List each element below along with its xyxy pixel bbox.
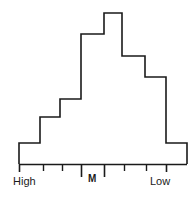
- histogram-figure: High M Low: [0, 0, 190, 197]
- histogram-outline: [19, 13, 187, 164]
- axis-label-high: High: [13, 176, 36, 187]
- axis-label-median: M: [88, 174, 96, 184]
- histogram-plot: [0, 0, 190, 197]
- axis-label-low: Low: [150, 176, 170, 187]
- histogram-step-path: [19, 13, 187, 164]
